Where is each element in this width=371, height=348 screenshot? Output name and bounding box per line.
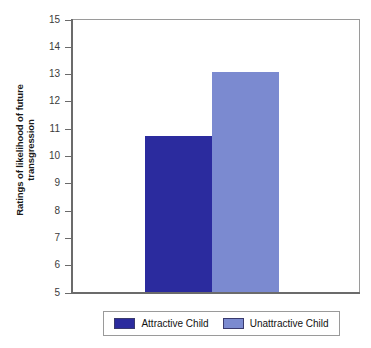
legend-label-attractive: Attractive Child <box>141 318 208 329</box>
y-tick-13 <box>65 74 71 75</box>
legend-item-unattractive[interactable]: Unattractive Child <box>223 318 329 329</box>
plot-area <box>72 19 360 293</box>
y-tick-label-13: 13 <box>30 69 60 79</box>
y-tick-10 <box>65 156 71 157</box>
legend-swatch-unattractive <box>223 318 244 329</box>
y-tick-label-14: 14 <box>30 42 60 52</box>
y-tick-5 <box>65 293 71 294</box>
x-axis-line <box>71 292 360 294</box>
bar-chart: Ratings of likelihood of future transgre… <box>0 0 371 348</box>
legend-label-unattractive: Unattractive Child <box>250 318 329 329</box>
y-tick-7 <box>65 238 71 239</box>
y-axis-line <box>71 19 73 293</box>
y-tick-12 <box>65 101 71 102</box>
y-tick-label-15: 15 <box>30 15 60 25</box>
y-tick-11 <box>65 129 71 130</box>
bars-layer <box>73 20 359 292</box>
y-tick-label-10: 10 <box>30 151 60 161</box>
y-tick-label-6: 6 <box>30 260 60 270</box>
legend-swatch-attractive <box>114 318 135 329</box>
y-tick-label-11: 11 <box>30 124 60 134</box>
y-tick-label-12: 12 <box>30 96 60 106</box>
y-tick-6 <box>65 265 71 266</box>
bar-unattractive[interactable] <box>212 72 279 293</box>
y-tick-label-8: 8 <box>30 206 60 216</box>
y-axis-title-line-1: Ratings of likelihood of future <box>14 84 25 215</box>
chart-legend: Attractive Child Unattractive Child <box>103 311 340 336</box>
y-tick-14 <box>65 47 71 48</box>
y-tick-label-5: 5 <box>30 288 60 298</box>
y-tick-label-7: 7 <box>30 233 60 243</box>
bar-attractive[interactable] <box>145 136 212 293</box>
y-tick-8 <box>65 211 71 212</box>
y-tick-label-9: 9 <box>30 178 60 188</box>
legend-item-attractive[interactable]: Attractive Child <box>114 318 208 329</box>
y-tick-9 <box>65 183 71 184</box>
y-tick-15 <box>65 20 71 21</box>
